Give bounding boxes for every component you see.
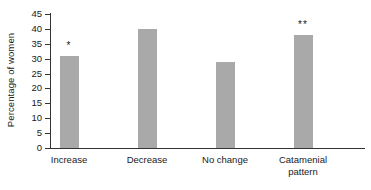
bar-significance-marker: ** (294, 20, 313, 30)
y-axis-tick: 20 (0, 88, 50, 89)
y-axis-tick-mark (45, 88, 50, 89)
y-axis-tick-label: 5 (0, 128, 42, 137)
x-axis-label-line: Catamenial (264, 154, 342, 166)
y-axis-tick-mark (45, 118, 50, 119)
bar-group (138, 14, 157, 148)
y-axis-tick: 5 (0, 133, 50, 134)
y-axis-tick: 25 (0, 74, 50, 75)
y-axis-tick-mark (45, 44, 50, 45)
y-axis-tick: 35 (0, 44, 50, 45)
x-axis-label-line: No change (186, 154, 264, 166)
bar-significance-marker: * (60, 41, 79, 51)
y-axis-tick-mark (45, 59, 50, 60)
x-axis-label: Catamenialpattern (264, 154, 342, 177)
y-axis-tick-mark (45, 29, 50, 30)
y-axis-tick-mark (45, 74, 50, 75)
y-axis-tick: 10 (0, 118, 50, 119)
y-axis-tick-mark (45, 148, 50, 149)
bar (216, 62, 235, 148)
y-axis-tick-label: 25 (0, 69, 42, 78)
x-axis-label-line: Increase (30, 154, 108, 166)
x-axis-label: Increase (30, 154, 108, 166)
x-axis-label-line: pattern (264, 166, 342, 178)
y-axis-line (50, 13, 51, 149)
y-axis-tick-label: 45 (0, 9, 42, 18)
y-axis-tick: 0 (0, 148, 50, 149)
y-axis-tick: 45 (0, 14, 50, 15)
y-axis-tick-mark (45, 14, 50, 15)
y-axis-tick-label: 15 (0, 98, 42, 107)
x-axis-line (50, 148, 365, 149)
bar-chart: Percentage of women 051015202530354045 *… (0, 0, 371, 190)
y-axis-tick-mark (45, 133, 50, 134)
x-axis-label: No change (186, 154, 264, 166)
y-axis-tick: 40 (0, 29, 50, 30)
y-axis-tick-label: 20 (0, 83, 42, 92)
bar (294, 35, 313, 148)
bar (138, 29, 157, 148)
y-axis-tick-label: 35 (0, 39, 42, 48)
y-axis-tick-mark (45, 103, 50, 104)
bar-group (216, 14, 235, 148)
y-axis-tick-label: 30 (0, 54, 42, 63)
y-axis-tick-label: 0 (0, 143, 42, 152)
y-axis-tick: 30 (0, 59, 50, 60)
bar (60, 56, 79, 148)
y-axis-tick-label: 40 (0, 24, 42, 33)
x-axis-label-line: Decrease (108, 154, 186, 166)
y-axis-tick-label: 10 (0, 113, 42, 122)
bar-group: * (60, 14, 79, 148)
x-axis-label: Decrease (108, 154, 186, 166)
bar-group: ** (294, 14, 313, 148)
y-axis-tick: 15 (0, 103, 50, 104)
